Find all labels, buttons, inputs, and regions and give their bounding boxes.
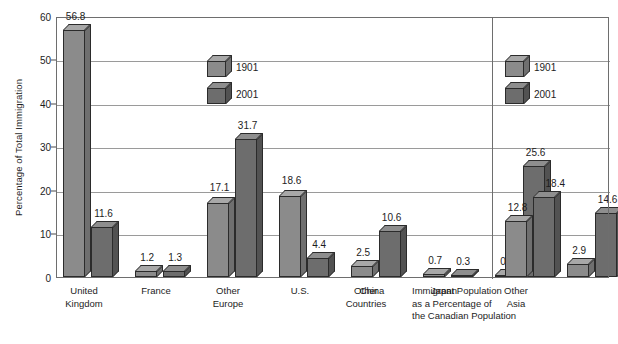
y-axis-tick-group: 60 50 40 30 20 10 0 <box>18 0 51 344</box>
legend-label-1901: 1901 <box>236 62 258 73</box>
bar-value-label: 1.3 <box>168 252 182 263</box>
bar-front-face <box>451 275 473 277</box>
bar-front-face <box>505 221 527 277</box>
bar-front-face <box>235 139 257 277</box>
legend-swatch-2001-icon <box>207 88 226 104</box>
cube-side-face <box>226 82 232 104</box>
cube-front-face <box>207 88 226 104</box>
bar-front-face <box>533 197 555 277</box>
cube-side-face <box>524 82 530 104</box>
category-label-united-kingdom: United Kingdom <box>48 285 120 310</box>
cube-front-face <box>505 88 524 104</box>
bar-value-label: 11.6 <box>94 208 113 219</box>
bar-front-face <box>163 271 185 277</box>
bar-united-kingdom-1901[interactable]: 56.8 <box>63 30 85 277</box>
immigration-bar-chart: Percentage of Total Immigration 60 50 40… <box>0 0 618 344</box>
bar-value-label: 10.6 <box>382 212 401 223</box>
bar-france-2001[interactable]: 1.3 <box>163 271 185 277</box>
category-label-us: U.S. <box>264 285 336 298</box>
cube-front-face <box>505 61 524 77</box>
bar-side-face <box>113 221 119 277</box>
bar-other-countries-1901[interactable]: 2.9 <box>567 264 589 277</box>
bar-other-countries-2001[interactable]: 14.6 <box>595 213 617 277</box>
y-tick-label-10: 10 <box>29 229 51 240</box>
cube-side-face <box>524 55 530 77</box>
bar-front-face <box>279 196 301 277</box>
category-label-immigrant-population: Immigrant Population as a Percentage of … <box>412 285 612 323</box>
cube-side-face <box>226 55 232 77</box>
y-tick-label-0: 0 <box>29 273 51 284</box>
bar-front-face <box>423 274 445 277</box>
bar-china-2001[interactable]: 10.6 <box>379 231 401 277</box>
bar-value-label: 31.7 <box>238 120 257 131</box>
category-label-other-europe: Other Europe <box>192 285 264 310</box>
bar-front-face <box>307 258 329 277</box>
bar-united-kingdom-2001[interactable]: 11.6 <box>91 227 113 277</box>
bar-china-1901[interactable]: 2.5 <box>351 266 373 277</box>
bar-immigrant-population-2001[interactable]: 18.4 <box>533 197 555 277</box>
y-tick-label-30: 30 <box>29 142 51 153</box>
bar-side-face <box>257 133 263 277</box>
y-tick-label-40: 40 <box>29 99 51 110</box>
bar-france-1901[interactable]: 1.2 <box>135 271 157 277</box>
plot-frame-right-edge <box>608 17 609 278</box>
bar-front-face <box>91 227 113 277</box>
bar-front-face <box>351 266 373 277</box>
legend-panel-swatch-2001-icon <box>505 88 524 104</box>
bar-other-europe-1901[interactable]: 17.1 <box>207 203 229 277</box>
bar-front-face <box>135 271 157 277</box>
bar-value-label: 2.5 <box>356 247 370 258</box>
bar-japan-2001[interactable]: 0.3 <box>451 275 473 277</box>
bar-front-face <box>595 213 617 277</box>
bar-side-face <box>401 225 407 277</box>
bar-value-label: 18.4 <box>546 178 565 189</box>
bar-japan-1901[interactable]: 0.7 <box>423 274 445 277</box>
bar-value-label: 0.7 <box>428 255 442 266</box>
category-label-france: France <box>120 285 192 298</box>
bar-front-face <box>567 264 589 277</box>
cube-front-face <box>207 61 226 77</box>
bar-front-face <box>379 231 401 277</box>
legend-label-2001: 2001 <box>236 89 258 100</box>
legend-panel-label-1901: 1901 <box>534 62 556 73</box>
plot-area: 56.8 11.6 1.2 1.3 17.1 <box>56 17 609 278</box>
bar-value-label: 4.4 <box>312 239 326 250</box>
bar-us-2001[interactable]: 4.4 <box>307 258 329 277</box>
bar-side-face <box>329 252 335 277</box>
bar-value-label: 2.9 <box>572 245 586 256</box>
y-tick-label-50: 50 <box>29 55 51 66</box>
bar-value-label: 25.6 <box>526 147 545 158</box>
bar-value-label: 18.6 <box>282 175 301 186</box>
bar-value-label: 1.2 <box>140 252 154 263</box>
y-tick-label-20: 20 <box>29 186 51 197</box>
legend-panel-swatch-1901-icon <box>505 61 524 77</box>
legend-swatch-1901-icon <box>207 61 226 77</box>
bar-value-label: 17.1 <box>210 182 229 193</box>
bar-side-face <box>555 191 561 277</box>
bar-value-label: 0.3 <box>456 256 470 267</box>
category-label-other-countries: Other Countries <box>330 285 402 310</box>
panel-divider <box>492 18 493 279</box>
bar-value-label: 56.8 <box>66 11 85 22</box>
bar-other-europe-2001[interactable]: 31.7 <box>235 139 257 277</box>
gridline-40 <box>57 105 610 106</box>
bar-front-face <box>63 30 85 277</box>
bar-front-face <box>207 203 229 277</box>
bar-value-label: 12.8 <box>508 202 527 213</box>
y-tick-label-60: 60 <box>29 12 51 23</box>
bar-us-1901[interactable]: 18.6 <box>279 196 301 277</box>
legend-panel-label-2001: 2001 <box>534 89 556 100</box>
bar-immigrant-population-1901[interactable]: 12.8 <box>505 221 527 277</box>
